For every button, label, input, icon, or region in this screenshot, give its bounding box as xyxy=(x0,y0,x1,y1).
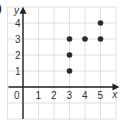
data-point xyxy=(98,36,104,42)
x-tick-label: 0 xyxy=(14,90,20,101)
y-axis-arrow-icon xyxy=(20,7,27,14)
data-point xyxy=(82,36,88,42)
data-point xyxy=(98,20,104,26)
y-axis-label: y xyxy=(13,5,20,16)
x-tick-label: 1 xyxy=(36,90,42,101)
y-tick-label: 2 xyxy=(15,50,21,61)
data-point xyxy=(67,52,73,58)
y-tick-label: 3 xyxy=(15,34,21,45)
data-point xyxy=(67,68,73,74)
x-tick-label: 2 xyxy=(51,90,57,101)
x-axis-label: x xyxy=(111,89,118,100)
y-tick-label: 1 xyxy=(15,66,21,77)
x-tick-label: 5 xyxy=(98,90,104,101)
y-tick-label: 4 xyxy=(15,18,21,29)
x-tick-label: 3 xyxy=(67,90,73,101)
x-tick-label: 4 xyxy=(82,90,88,101)
data-point xyxy=(67,36,73,42)
scatter-plot: 0123451234xy xyxy=(0,0,123,125)
